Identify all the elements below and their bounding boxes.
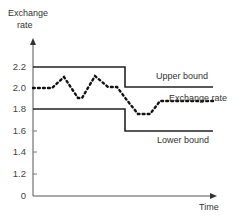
x-axis-label: Time bbox=[199, 202, 219, 212]
upper-bound-annotation: Upper bound bbox=[156, 71, 208, 81]
lower-bound-line bbox=[33, 109, 213, 131]
exchange-rate-annotation: Exchange rate bbox=[169, 93, 227, 103]
x-axis-arrow-icon bbox=[210, 193, 217, 199]
lower-bound-annotation: Lower bound bbox=[157, 135, 209, 145]
y-axis-arrow-icon bbox=[30, 38, 36, 45]
chart-plot bbox=[0, 0, 240, 220]
y-ticks bbox=[33, 131, 37, 174]
